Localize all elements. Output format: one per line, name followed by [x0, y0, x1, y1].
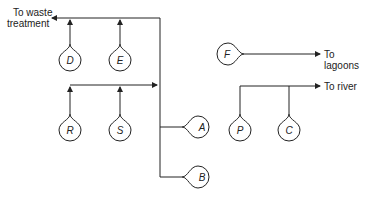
node-b-label: B [199, 172, 206, 183]
node-c-label: C [285, 125, 293, 136]
node-e-label: E [117, 55, 124, 66]
node-d-label: D [66, 55, 73, 66]
flow-diagram: D E R S A B F P C [0, 0, 372, 198]
node-f-label: F [224, 49, 231, 60]
node-p-label: P [237, 125, 244, 136]
node-r-label: R [66, 125, 73, 136]
node-a-label: A [198, 122, 206, 133]
node-s-label: S [117, 125, 124, 136]
node-f [217, 43, 244, 65]
